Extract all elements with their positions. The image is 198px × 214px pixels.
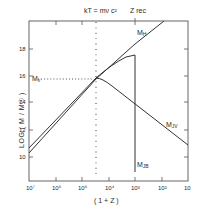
x-axis-title: ( 1 + Z ): [94, 197, 119, 204]
right-axis-ticks: [184, 49, 188, 157]
label-mjb-sub: JB: [143, 163, 149, 169]
label-mjv: MJV: [166, 121, 178, 129]
label-mh-sub: H: [143, 31, 147, 37]
zrec-annotation-text: Z rec: [130, 7, 146, 14]
x-tick-1e4: 10⁴: [105, 185, 114, 191]
kt-annotation-text: kT = mν c²: [84, 7, 117, 14]
y-axis-title: LOG ( M / M☉ ): [18, 92, 26, 148]
x-tick-1e2: 10²: [158, 185, 167, 191]
curve-mjv: [96, 78, 188, 145]
curve-upper-branch: [29, 55, 135, 172]
y-tick-18: 18: [19, 46, 26, 52]
y-tick-16: 16: [19, 73, 26, 79]
label-mh: MH: [137, 29, 146, 37]
plot-frame: [29, 21, 188, 181]
y-tick-10: 10: [19, 154, 26, 160]
label-mjv-sub: JV: [172, 123, 178, 129]
x-tick-1e6: 10⁶: [52, 185, 61, 191]
top-axis-ticks: [56, 18, 135, 25]
x-tick-1e7: 10⁷: [26, 185, 35, 191]
chart: [0, 0, 198, 214]
label-mv: Mν: [32, 75, 40, 83]
x-tick-10: 10: [184, 185, 191, 191]
x-tick-1e5: 10⁵: [78, 185, 87, 191]
kt-annotation: kT = mν c²: [84, 7, 117, 14]
x-tick-1e3: 10³: [131, 185, 140, 191]
label-mv-sub: ν: [38, 77, 41, 83]
zrec-annotation: Z rec: [130, 7, 146, 14]
y-axis-ticks: [29, 49, 33, 157]
label-mjb: MJB: [137, 161, 149, 169]
x-axis-ticks: [56, 177, 162, 181]
